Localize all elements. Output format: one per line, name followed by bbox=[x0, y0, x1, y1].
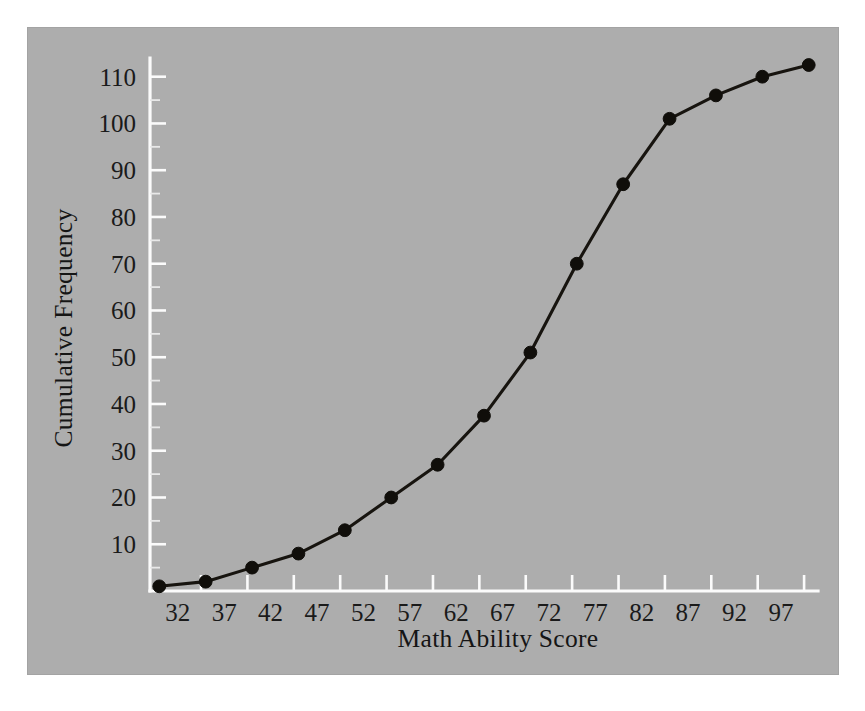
y-axis bbox=[150, 58, 166, 591]
y-tick-label: 100 bbox=[99, 110, 137, 137]
y-tick-label: 70 bbox=[111, 251, 136, 278]
data-point-marker bbox=[338, 524, 351, 537]
x-tick-label: 47 bbox=[305, 599, 330, 626]
y-tick-label: 80 bbox=[111, 204, 136, 231]
data-point-marker bbox=[710, 89, 723, 102]
y-tick-label: 110 bbox=[99, 64, 136, 91]
chart-panel: 102030405060708090100110 323742475257626… bbox=[28, 28, 838, 674]
x-tick-label: 77 bbox=[583, 599, 608, 626]
data-point-marker bbox=[478, 409, 491, 422]
x-tick-label: 42 bbox=[258, 599, 283, 626]
data-point-marker bbox=[292, 547, 305, 560]
series-polyline bbox=[159, 65, 808, 586]
x-tick-label: 67 bbox=[490, 599, 515, 626]
data-point-marker bbox=[756, 70, 769, 83]
y-axis-tick-labels: 102030405060708090100110 bbox=[99, 64, 137, 559]
data-point-marker bbox=[524, 346, 537, 359]
x-tick-label: 97 bbox=[768, 599, 793, 626]
y-tick-label: 90 bbox=[111, 157, 136, 184]
figure-root: 102030405060708090100110 323742475257626… bbox=[0, 0, 865, 711]
x-axis-tick-labels: 3237424752576267727782879297 bbox=[165, 599, 793, 626]
y-tick-label: 10 bbox=[111, 531, 136, 558]
data-point-marker bbox=[617, 178, 630, 191]
x-tick-label: 87 bbox=[676, 599, 701, 626]
x-tick-label: 92 bbox=[722, 599, 747, 626]
data-point-marker bbox=[246, 561, 259, 574]
y-axis-title: Cumulative Frequency bbox=[49, 209, 78, 448]
y-tick-label: 30 bbox=[111, 438, 136, 465]
data-point-marker bbox=[570, 257, 583, 270]
x-tick-label: 57 bbox=[397, 599, 422, 626]
x-tick-label: 82 bbox=[629, 599, 654, 626]
data-point-marker bbox=[802, 59, 815, 72]
data-point-marker bbox=[385, 491, 398, 504]
y-tick-label: 60 bbox=[111, 297, 136, 324]
data-point-marker bbox=[199, 575, 212, 588]
cumulative-frequency-ogive-chart: 102030405060708090100110 323742475257626… bbox=[28, 28, 838, 674]
y-tick-label: 40 bbox=[111, 391, 136, 418]
x-axis bbox=[150, 575, 818, 591]
x-tick-label: 62 bbox=[444, 599, 469, 626]
x-tick-label: 32 bbox=[165, 599, 190, 626]
x-tick-label: 52 bbox=[351, 599, 376, 626]
x-tick-label: 72 bbox=[536, 599, 561, 626]
x-axis-title: Math Ability Score bbox=[398, 624, 599, 653]
y-tick-label: 50 bbox=[111, 344, 136, 371]
data-point-marker bbox=[431, 458, 444, 471]
data-point-marker bbox=[153, 580, 166, 593]
data-point-marker bbox=[663, 112, 676, 125]
y-tick-label: 20 bbox=[111, 484, 136, 511]
x-tick-label: 37 bbox=[212, 599, 237, 626]
data-series-cumulative-frequency bbox=[153, 59, 815, 593]
